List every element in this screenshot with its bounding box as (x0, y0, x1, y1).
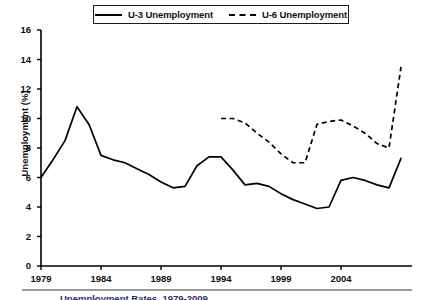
figure-caption: Unemployment Rates, 1979-2009 (60, 293, 208, 300)
caption-divider (22, 289, 412, 291)
chart-legend: U-3 Unemployment U-6 Unemployment (93, 5, 349, 24)
legend-entry-u3: U-3 Unemployment (95, 9, 213, 20)
y-tick-label: 2 (9, 231, 31, 242)
legend-entry-u6: U-6 Unemployment (229, 9, 347, 20)
solid-line-swatch-icon (95, 14, 122, 16)
x-tick-label: 1994 (201, 273, 241, 284)
y-tick-label: 0 (9, 260, 31, 271)
x-tick-label: 2004 (321, 273, 361, 284)
y-tick-label: 16 (9, 24, 31, 35)
legend-label-u6: U-6 Unemployment (262, 9, 347, 20)
x-tick-label: 1989 (141, 273, 181, 284)
y-tick-label: 8 (9, 142, 31, 153)
unemployment-chart-figure: U-3 Unemployment U-6 Unemployment Unempl… (0, 0, 424, 300)
y-tick-label: 6 (9, 172, 31, 183)
y-tick-label: 4 (9, 201, 31, 212)
series-line-u6 (221, 67, 401, 163)
series-line-u3 (41, 107, 401, 209)
legend-label-u3: U-3 Unemployment (128, 9, 213, 20)
x-tick-label: 1999 (261, 273, 301, 284)
axis-group (37, 30, 412, 270)
x-tick-label: 1984 (81, 273, 121, 284)
y-tick-label: 12 (9, 83, 31, 94)
y-tick-label: 14 (9, 54, 31, 65)
data-series-group (41, 67, 401, 209)
dashed-line-swatch-icon (229, 14, 256, 16)
x-tick-label: 1979 (21, 273, 61, 284)
chart-plot-area (0, 0, 424, 300)
y-tick-label: 10 (9, 113, 31, 124)
